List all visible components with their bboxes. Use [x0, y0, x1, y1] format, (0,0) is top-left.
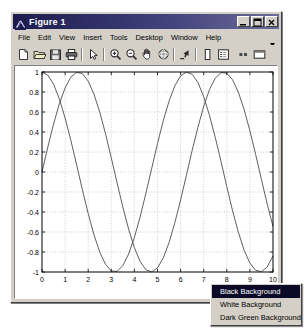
- svg-text:10: 10: [269, 276, 277, 283]
- insert-colorbar-icon[interactable]: [199, 47, 215, 63]
- svg-text:6: 6: [179, 276, 183, 283]
- figure-canvas[interactable]: 012345678910 -1-0.8-0.6-0.4-0.200.20.40.…: [14, 65, 278, 299]
- save-figure-icon[interactable]: [47, 47, 63, 63]
- show-plot-tools-icon[interactable]: [251, 47, 267, 63]
- svg-text:0.2: 0.2: [29, 149, 39, 156]
- rotate-3d-icon[interactable]: [155, 47, 171, 63]
- context-menu-item-black-background[interactable]: Black Background: [212, 285, 300, 298]
- edit-plot-icon[interactable]: [85, 47, 101, 63]
- svg-text:9: 9: [248, 276, 252, 283]
- figure-window: Figure 1 File Edit View Insert Tools Des…: [10, 11, 282, 303]
- grid-lines: [42, 72, 273, 272]
- toolbar-separator: [195, 48, 197, 61]
- y-axis-tick-labels: -1-0.8-0.6-0.4-0.200.20.40.60.81: [27, 69, 39, 276]
- menu-item-edit[interactable]: Edit: [34, 32, 55, 44]
- menu-item-insert[interactable]: Insert: [79, 32, 106, 44]
- zoom-in-icon[interactable]: [107, 47, 123, 63]
- zoom-out-icon[interactable]: [123, 47, 139, 63]
- svg-text:-0.6: -0.6: [27, 229, 39, 236]
- insert-legend-icon[interactable]: [215, 47, 231, 63]
- print-figure-icon[interactable]: [63, 47, 79, 63]
- toolbar-separator: [173, 48, 175, 61]
- toolbar-separator: [81, 48, 83, 61]
- chevron-down-icon[interactable]: [269, 34, 276, 41]
- background-context-menu[interactable]: Black Background White Background Dark G…: [210, 283, 302, 326]
- svg-text:-0.4: -0.4: [27, 209, 39, 216]
- svg-text:1: 1: [63, 276, 67, 283]
- svg-text:-0.2: -0.2: [27, 189, 39, 196]
- svg-text:4: 4: [132, 276, 136, 283]
- svg-text:-1: -1: [33, 269, 39, 276]
- svg-text:0.6: 0.6: [29, 109, 39, 116]
- svg-text:0.4: 0.4: [29, 129, 39, 136]
- menu-item-view[interactable]: View: [55, 32, 79, 44]
- svg-text:2: 2: [86, 276, 90, 283]
- new-figure-icon[interactable]: [15, 47, 31, 63]
- window-title: Figure 1: [29, 17, 236, 27]
- svg-text:5: 5: [156, 276, 160, 283]
- screenshot-root: Figure 1 File Edit View Insert Tools Des…: [0, 0, 305, 328]
- minimize-button[interactable]: [237, 16, 250, 27]
- title-bar[interactable]: Figure 1: [13, 14, 279, 29]
- menu-item-help[interactable]: Help: [202, 32, 225, 44]
- svg-text:1: 1: [35, 69, 39, 76]
- data-cursor-icon[interactable]: [177, 47, 193, 63]
- close-button[interactable]: [265, 16, 278, 27]
- menu-item-window[interactable]: Window: [167, 32, 202, 44]
- svg-text:3: 3: [109, 276, 113, 283]
- hide-plot-tools-icon[interactable]: [235, 47, 251, 63]
- plot-axes[interactable]: 012345678910 -1-0.8-0.6-0.4-0.200.20.40.…: [15, 66, 278, 299]
- context-menu-item-dark-green-background[interactable]: Dark Green Background: [212, 311, 300, 324]
- open-file-icon[interactable]: [31, 47, 47, 63]
- menu-bar: File Edit View Insert Tools Desktop Wind…: [14, 31, 278, 44]
- toolbar: [14, 45, 278, 64]
- menu-item-desktop[interactable]: Desktop: [131, 32, 167, 44]
- svg-text:7: 7: [202, 276, 206, 283]
- svg-text:0.8: 0.8: [29, 89, 39, 96]
- pan-icon[interactable]: [139, 47, 155, 63]
- svg-text:0: 0: [35, 169, 39, 176]
- svg-text:0: 0: [40, 276, 44, 283]
- toolbar-separator: [103, 48, 105, 61]
- svg-text:-0.8: -0.8: [27, 249, 39, 256]
- maximize-button[interactable]: [251, 16, 264, 27]
- x-axis-tick-labels: 012345678910: [40, 276, 277, 283]
- menu-item-tools[interactable]: Tools: [106, 32, 132, 44]
- matlab-membrane-icon: [15, 16, 26, 27]
- svg-text:8: 8: [225, 276, 229, 283]
- context-menu-item-white-background[interactable]: White Background: [212, 298, 300, 311]
- menu-item-file[interactable]: File: [14, 32, 34, 44]
